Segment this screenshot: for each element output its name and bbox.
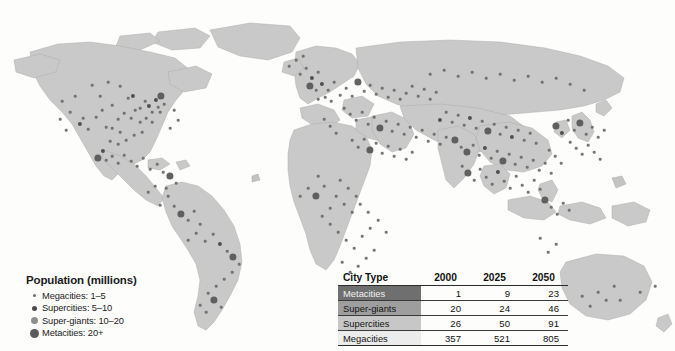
city-dot (321, 215, 324, 218)
city-dot (111, 104, 114, 107)
table-row: Metacities1923 (338, 286, 568, 301)
city-dot (427, 140, 430, 143)
city-dot (187, 219, 190, 222)
city-dot (204, 240, 207, 243)
city-dot (393, 89, 396, 92)
city-dot (475, 127, 478, 130)
city-dot (387, 145, 390, 148)
city-dot (399, 98, 402, 101)
city-dot (619, 299, 622, 302)
city-dot (367, 123, 370, 126)
city-dot (123, 112, 126, 115)
city-dot (585, 133, 588, 136)
city-dot (373, 249, 376, 252)
city-dot (351, 211, 354, 214)
city-dot (569, 83, 572, 86)
city-dot (527, 191, 530, 194)
city-dot (517, 129, 520, 132)
city-dot (169, 127, 172, 130)
city-dot (533, 179, 536, 182)
city-dot (151, 111, 154, 114)
city-dot (226, 250, 229, 253)
city-dot (99, 95, 102, 98)
city-dot (429, 98, 432, 101)
city-dot (529, 132, 532, 135)
dot-icon (26, 294, 42, 297)
city-dot (589, 305, 592, 308)
city-dot (207, 292, 210, 295)
city-dot (573, 129, 576, 132)
city-dot (411, 85, 414, 88)
city-dot (357, 265, 360, 268)
table-head: City Type 2000 2025 2050 (338, 272, 568, 286)
column-header-2000: 2000 (421, 272, 470, 286)
city-dot (119, 131, 122, 134)
city-dot (505, 126, 508, 129)
city-dot (527, 75, 530, 78)
city-dot (556, 213, 559, 216)
city-dot (117, 143, 120, 146)
city-dot (375, 93, 378, 96)
city-dot (173, 205, 176, 208)
city-dot (59, 118, 62, 121)
city-dot (513, 79, 516, 82)
city-dot (163, 103, 166, 106)
city-dot (381, 87, 384, 90)
cell-city-type: Super-giants (338, 301, 421, 316)
city-type-table: City Type 2000 2025 2050 Metacities1923S… (338, 272, 568, 346)
city-dot (167, 195, 170, 198)
city-dot (555, 77, 558, 80)
city-dot (141, 131, 144, 134)
cell-2025: 24 (470, 301, 519, 316)
city-dot (329, 223, 332, 226)
cell-2050: 46 (519, 301, 568, 316)
legend-item: Super-giants: 10–20 (26, 315, 137, 326)
city-dot (95, 116, 98, 119)
city-dot (317, 98, 320, 101)
city-dot (509, 187, 512, 190)
city-dot (195, 232, 198, 235)
city-dot (490, 157, 493, 160)
city-dot (539, 188, 542, 191)
city-dot (479, 168, 482, 171)
city-dot (554, 155, 557, 158)
city-dot (349, 113, 352, 116)
city-dot (581, 153, 584, 156)
city-dot (355, 119, 358, 122)
city-dot (654, 285, 657, 288)
city-dot (526, 166, 529, 169)
city-dot (583, 89, 586, 92)
city-dot (345, 87, 348, 90)
city-dot (323, 185, 326, 188)
legend-item: Supercities: 5–10 (26, 303, 137, 314)
city-dot (491, 183, 494, 186)
city-dot (361, 235, 364, 238)
city-dot (471, 71, 474, 74)
city-dot (341, 261, 344, 264)
city-dot (220, 306, 223, 309)
cell-city-type: Supercities (338, 316, 421, 331)
city-dot (435, 91, 438, 94)
city-dot (335, 132, 338, 135)
city-dot (330, 100, 333, 103)
city-dot (485, 176, 488, 179)
city-dot (375, 142, 378, 145)
city-dot (541, 81, 544, 84)
city-dot (355, 195, 358, 198)
city-dot (363, 138, 366, 141)
city-dot (399, 148, 402, 151)
city-dot (142, 157, 145, 160)
city-dot (562, 202, 565, 205)
cell-2000: 20 (421, 301, 470, 316)
city-dot (550, 172, 553, 175)
city-dot (357, 146, 360, 149)
legend-item-label: Supercities: 5–10 (42, 303, 112, 313)
city-type-table-wrap: City Type 2000 2025 2050 Metacities1923S… (338, 272, 568, 346)
city-dot (361, 111, 364, 114)
cell-2050: 23 (519, 286, 568, 301)
cell-city-type: Metacities (338, 286, 421, 301)
city-dot (302, 55, 305, 58)
city-dot (353, 247, 356, 250)
dot-icon (26, 329, 42, 338)
city-dot (288, 65, 291, 68)
